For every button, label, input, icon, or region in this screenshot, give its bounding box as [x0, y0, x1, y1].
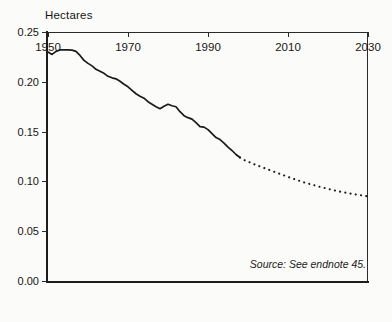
y-tick-mark	[42, 32, 47, 33]
line-projected	[240, 158, 368, 197]
line-historical	[48, 50, 240, 158]
y-tick-label: 0.20	[18, 76, 39, 88]
y-tick-mark	[42, 281, 47, 282]
y-tick-mark	[42, 82, 47, 83]
plot-area: 0.000.050.100.150.200.25 195019701990201…	[48, 32, 368, 281]
y-tick-label: 0.00	[18, 275, 39, 287]
y-tick-mark	[42, 181, 47, 182]
y-tick-label: 0.15	[18, 126, 39, 138]
y-tick-mark	[42, 231, 47, 232]
source-note: Source: See endnote 45.	[250, 258, 366, 270]
y-tick-label: 0.25	[18, 26, 39, 38]
y-tick-mark	[42, 132, 47, 133]
x-axis-spine	[46, 281, 369, 283]
x-tick-mark	[368, 32, 369, 37]
chart-figure: Hectares 0.000.050.100.150.200.25 195019…	[0, 0, 392, 322]
y-tick-label: 0.10	[18, 175, 39, 187]
data-series-layer	[48, 32, 368, 281]
y-axis-label: Hectares	[45, 9, 93, 21]
y-tick-label: 0.05	[18, 225, 39, 237]
